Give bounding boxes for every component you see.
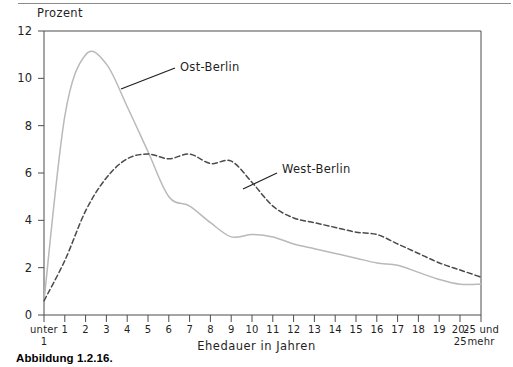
series-annotation-west-berlin: West-Berlin (282, 162, 351, 176)
series-annotation-ost-berlin: Ost-Berlin (180, 60, 240, 74)
y-axis-ticks (38, 31, 44, 315)
y-tick-label-12: 12 (6, 24, 32, 38)
y-tick-label-10: 10 (6, 71, 32, 85)
west-berlin-leader-line (243, 173, 277, 189)
chart-plot-area (0, 0, 513, 367)
y-tick-label-0: 0 (6, 308, 32, 322)
figure-caption: Abbildung 1.2.16. (16, 352, 113, 364)
series-line-ost-berlin (44, 51, 481, 301)
series-line-west-berlin (44, 154, 481, 301)
x-axis-title: Ehedauer in Jahren (0, 339, 513, 353)
x-axis-ticks (44, 315, 481, 322)
y-tick-label-2: 2 (6, 261, 32, 275)
ost-berlin-leader-line (121, 68, 175, 89)
figure-container: Prozent (0, 0, 513, 367)
y-tick-label-8: 8 (6, 119, 32, 133)
y-tick-label-4: 4 (6, 213, 32, 227)
y-tick-label-6: 6 (6, 166, 32, 180)
